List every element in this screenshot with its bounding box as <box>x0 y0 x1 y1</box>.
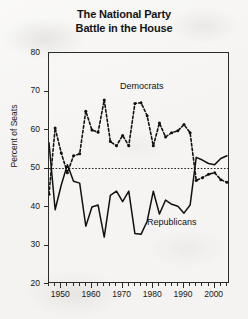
x-tick-label: 2000 <box>197 290 231 299</box>
democrats-data-point <box>176 129 179 132</box>
series-label-republicans: Republicans <box>147 217 197 227</box>
democrats-data-point <box>140 101 143 104</box>
y-tick-label: 70 <box>10 86 40 95</box>
chart-title-line-1: The National Party <box>0 8 248 22</box>
democrats-data-point <box>170 131 173 134</box>
democrats-data-point <box>84 110 87 113</box>
democrats-data-point <box>213 171 216 174</box>
democrats-data-point <box>54 127 57 130</box>
democrats-data-point <box>164 135 167 138</box>
democrats-data-point <box>115 144 118 147</box>
democrats-data-point <box>158 122 161 125</box>
democrats-data-point <box>66 171 69 174</box>
x-tick-label: 1970 <box>105 290 139 299</box>
democrats-data-point <box>49 193 51 196</box>
democrats-data-point <box>195 179 198 182</box>
chart-title: The National Party Battle in the House <box>0 8 248 35</box>
democrats-data-point <box>72 154 75 157</box>
y-tick-label: 40 <box>10 202 40 211</box>
y-tick-label: 60 <box>10 125 40 134</box>
democrats-data-point <box>109 140 112 143</box>
y-tick-label: 20 <box>10 279 40 288</box>
democrats-data-point <box>225 181 228 184</box>
democrats-data-point <box>207 173 210 176</box>
democrats-data-point <box>189 131 192 134</box>
democrats-data-point <box>90 129 93 132</box>
democrats-line <box>49 100 227 194</box>
democrats-data-point <box>152 144 155 147</box>
democrats-data-point <box>133 102 136 105</box>
chart-title-line-2: Battle in the House <box>0 22 248 36</box>
y-tick-label: 50 <box>10 163 40 172</box>
x-tick-label: 1990 <box>166 290 200 299</box>
democrats-data-point <box>201 176 204 179</box>
democrats-data-point <box>182 123 185 126</box>
x-tick-label: 1960 <box>74 290 108 299</box>
democrats-data-point <box>146 114 149 117</box>
x-tick-label: 1950 <box>43 290 77 299</box>
republicans-line <box>49 143 227 237</box>
democrats-data-point <box>78 152 81 155</box>
x-tick-label: 1980 <box>135 290 169 299</box>
democrats-data-point <box>219 178 222 181</box>
democrats-data-point <box>121 134 124 137</box>
democrats-data-point <box>127 144 130 147</box>
democrats-data-point <box>97 131 100 134</box>
series-label-democrats: Democrats <box>120 81 164 91</box>
democrats-data-point <box>60 152 63 155</box>
democrats-data-point <box>103 98 106 101</box>
y-tick-label: 30 <box>10 240 40 249</box>
y-tick-label: 80 <box>10 48 40 57</box>
chart-screenshot: The National Party Battle in the House P… <box>0 0 248 319</box>
